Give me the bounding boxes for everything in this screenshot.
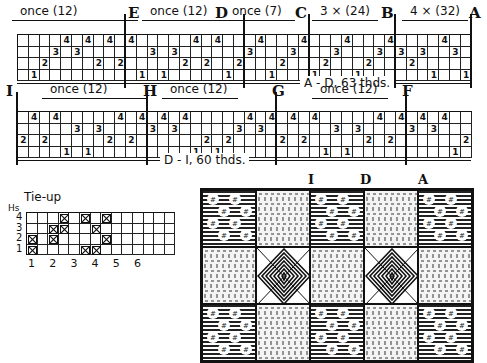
threading-top-thread: 3 — [288, 47, 299, 59]
threading-top-cell — [407, 47, 418, 59]
threading-top-cell — [428, 58, 439, 70]
threading-bottom-cell — [450, 124, 461, 136]
tieup-cell — [69, 234, 80, 245]
threading-bottom-divider-g — [275, 92, 277, 165]
drawdown-block-plain — [364, 304, 418, 361]
svg-text:#: # — [437, 346, 443, 354]
svg-text:#: # — [329, 346, 335, 354]
threading-bottom-cell — [461, 112, 472, 124]
svg-text:#: # — [243, 208, 249, 216]
threading-bottom-cell — [407, 135, 418, 147]
threading-top-thread: 2 — [202, 58, 213, 70]
tieup-cell — [112, 245, 123, 256]
tieup-cell — [154, 245, 165, 256]
tieup-mark-x-icon — [101, 234, 112, 245]
threading-bottom-cell — [115, 124, 126, 136]
threading-top-thread: 3 — [418, 47, 429, 59]
threading-bottom-cell — [374, 135, 385, 147]
tieup-cell — [69, 245, 80, 256]
tieup-grid — [26, 212, 175, 255]
threading-bottom-cell — [428, 147, 439, 159]
threading-top-cell — [61, 58, 72, 70]
threading-top-cell — [137, 35, 148, 47]
threading-bottom-thread: 4 — [439, 112, 450, 124]
drawdown-block-plain — [256, 190, 310, 247]
threading-top-thread: 4 — [256, 35, 267, 47]
threading-top-thread: 1 — [428, 70, 439, 82]
threading-top-cell — [212, 70, 223, 82]
threading-top-divider-e — [124, 14, 126, 88]
threading-top-repeat-label: once (12) — [20, 4, 77, 18]
threading-top-cell — [266, 47, 277, 59]
threading-top-thread: 4 — [104, 35, 115, 47]
threading-top-cell — [158, 58, 169, 70]
threading-bottom-cell — [310, 135, 321, 147]
threading-top-thread: 2 — [40, 58, 51, 70]
tieup-mark-x-icon — [91, 245, 102, 256]
threading-bottom-cell — [288, 147, 299, 159]
threading-bottom-thread: 2 — [461, 135, 472, 147]
threading-bottom-thread: 4 — [115, 112, 126, 124]
tieup-cell — [154, 234, 165, 245]
tieup-col-label: 5 — [113, 257, 120, 270]
threading-bottom-cell — [342, 112, 353, 124]
threading-top-cell — [418, 58, 429, 70]
threading-top-cell — [331, 35, 342, 47]
tieup-mark-x-icon — [80, 245, 91, 256]
threading-top-cell — [18, 35, 29, 47]
threading-top-thread: 3 — [50, 47, 61, 59]
threading-top-cell — [374, 35, 385, 47]
threading-top-cell — [288, 70, 299, 82]
tieup-cell — [38, 234, 49, 245]
threading-top-thread: 2 — [277, 58, 288, 70]
threading-bottom-thread: 3 — [256, 124, 267, 136]
svg-text:#: # — [221, 232, 227, 240]
threading-bottom-thread: 1 — [83, 147, 94, 159]
threading-top-thread: 1 — [266, 70, 277, 82]
svg-text:#: # — [221, 322, 227, 330]
threading-bottom-cell — [61, 135, 72, 147]
threading-top-cell — [18, 47, 29, 59]
threading-bottom-cell — [407, 147, 418, 159]
threading-top-repeat-arrow — [12, 20, 138, 21]
threading-top-cell — [450, 70, 461, 82]
threading-top-cell — [418, 35, 429, 47]
tieup-cell — [122, 234, 133, 245]
threading-top-cell — [407, 70, 418, 82]
svg-text:#: # — [221, 346, 227, 354]
svg-text:#: # — [426, 334, 432, 342]
threading-top-cell — [407, 35, 418, 47]
threading-bottom-cell — [364, 124, 375, 136]
threading-bottom-cell — [94, 147, 105, 159]
threading-top-cell — [202, 47, 213, 59]
threading-top-cell — [72, 35, 83, 47]
threading-top-thread: 3 — [245, 47, 256, 59]
threading-bottom-cell — [439, 147, 450, 159]
threading-bottom-cell — [223, 112, 234, 124]
tieup-cell — [59, 234, 70, 245]
threading-bottom-cell — [407, 112, 418, 124]
svg-text:#: # — [426, 220, 432, 228]
threading-bottom-cell — [18, 147, 29, 159]
threading-top-cell — [191, 58, 202, 70]
tieup-row-label: 2 — [16, 232, 22, 243]
threading-bottom-cell — [310, 124, 321, 136]
svg-text:#: # — [437, 322, 443, 330]
threading-bottom-divider-h — [146, 92, 148, 165]
threading-bottom-cell — [299, 124, 310, 136]
threading-bottom-cell — [450, 135, 461, 147]
svg-text:#: # — [448, 196, 454, 204]
threading-top-cell — [202, 35, 213, 47]
threading-bottom-cell — [428, 112, 439, 124]
svg-text:#: # — [426, 310, 432, 318]
drawdown-frame: ########################################… — [200, 188, 474, 363]
threading-top-cell — [29, 47, 40, 59]
threading-top-cell — [342, 47, 353, 59]
threading-bottom-cell — [115, 135, 126, 147]
tieup-cell — [112, 234, 123, 245]
threading-top-cell — [439, 47, 450, 59]
threading-top-cell — [40, 35, 51, 47]
threading-top-cell — [310, 47, 321, 59]
tieup-cell — [133, 234, 144, 245]
threading-bottom-cell — [94, 135, 105, 147]
